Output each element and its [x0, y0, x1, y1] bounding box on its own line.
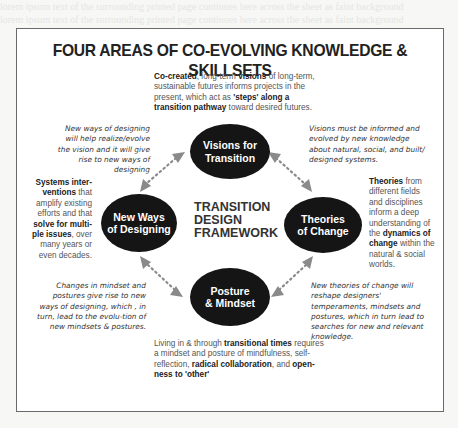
arrowhead-icon — [170, 286, 183, 297]
arrowhead-icon — [302, 256, 313, 269]
node-new-ways-of-designing: New Waysof Designing — [101, 194, 177, 252]
node-visions-for-transition: Visions forTransition — [190, 124, 270, 179]
node-theories-of-change: Theoriesof Change — [284, 197, 362, 253]
arrow-line-top-left — [147, 158, 176, 183]
arrow-line-bottom-left — [148, 265, 174, 289]
arrowhead-icon — [172, 152, 185, 163]
arrow-line-top-right — [276, 158, 304, 183]
arrow-line-bottom-right — [280, 265, 306, 289]
arrowhead-icon — [271, 286, 284, 297]
node-posture-and-mindset: Posture& Mindset — [190, 268, 270, 326]
framework-center-title: TRANSITION DESIGN FRAMEWORK — [194, 201, 290, 240]
